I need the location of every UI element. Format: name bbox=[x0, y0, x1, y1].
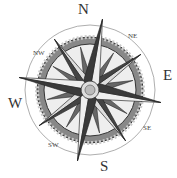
label-nw: NW bbox=[33, 49, 45, 57]
star-points bbox=[7, 7, 174, 174]
compass-rose: N E S W NE SE SW NW bbox=[0, 0, 177, 178]
label-e: E bbox=[163, 67, 172, 83]
label-w: W bbox=[8, 95, 23, 111]
label-ne: NE bbox=[128, 32, 137, 40]
label-s: S bbox=[100, 158, 108, 174]
label-sw: SW bbox=[48, 141, 59, 149]
label-n: N bbox=[78, 1, 89, 17]
label-se: SE bbox=[143, 124, 151, 132]
